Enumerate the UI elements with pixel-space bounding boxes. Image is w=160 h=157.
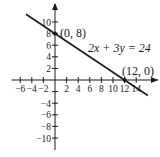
- x-tick-label: 2: [64, 84, 69, 94]
- equation-label: 2x + 3y = 24: [88, 41, 151, 55]
- x-tick-label: 4: [76, 84, 81, 94]
- y-tick-label: 6: [46, 41, 51, 51]
- y-tick-label: −8: [41, 122, 51, 132]
- y-axis-arrow-icon: [52, 3, 58, 10]
- x-tick-label: 6: [87, 84, 92, 94]
- x-intercept-label: (12, 0): [122, 64, 154, 78]
- chart: −6−4−22468101214108642−4−6−8−10 (0, 8) 2…: [0, 0, 160, 157]
- x-tick-label: 10: [108, 84, 118, 94]
- intercept-point: [53, 32, 57, 36]
- x-tick-label: 8: [99, 84, 104, 94]
- x-tick-label: 12: [120, 84, 130, 94]
- x-tick-label: −2: [38, 84, 48, 94]
- x-tick-label: −4: [27, 84, 37, 94]
- x-tick-label: −6: [15, 84, 25, 94]
- y-tick-label: −4: [41, 99, 51, 109]
- y-tick-label: −10: [36, 134, 51, 144]
- y-tick-label: 4: [46, 52, 51, 62]
- intercept-point: [123, 78, 127, 82]
- y-tick-label: −6: [41, 110, 51, 120]
- y-intercept-label: (0, 8): [60, 26, 86, 40]
- y-tick-label: 2: [46, 64, 51, 74]
